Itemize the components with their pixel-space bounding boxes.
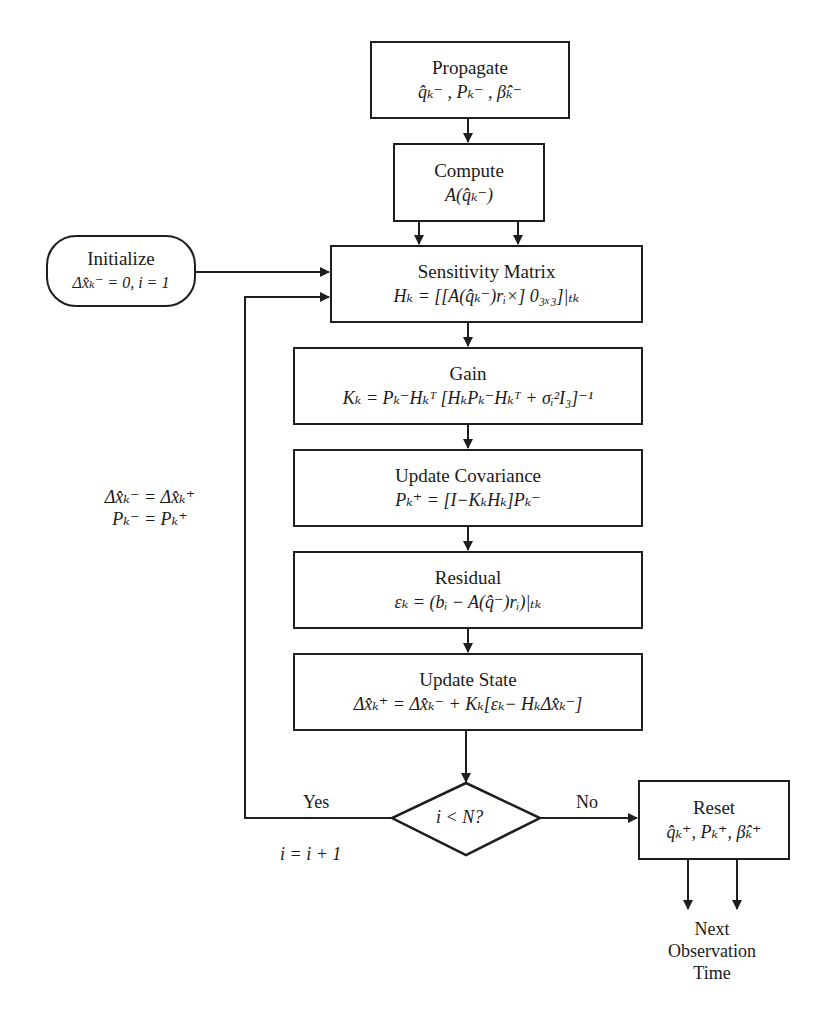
compute-equation: A(q̂ₖ⁻) — [445, 183, 493, 207]
update-covariance-title: Update Covariance — [395, 464, 541, 488]
next-line-2: Observation — [652, 940, 772, 962]
update-state-equation: Δx̂ₖ⁺ = Δx̂ₖ⁻ + Kₖ[εₖ− HₖΔx̂ₖ⁻] — [354, 692, 583, 716]
no-label: No — [576, 792, 598, 813]
loop-assign-covariance: Pₖ⁻ = Pₖ⁺ — [80, 508, 220, 530]
gain-box: Gain Kₖ = Pₖ⁻Hₖᵀ [HₖPₖ⁻Hₖᵀ + σᵢ²I₃]⁻¹ — [293, 347, 643, 425]
initialize-terminal: Initialize Δx̂ₖ⁻ = 0, i = 1 — [46, 235, 196, 307]
update-covariance-box: Update Covariance Pₖ⁺ = [I−KₖHₖ]Pₖ⁻ — [293, 449, 643, 527]
gain-equation: Kₖ = Pₖ⁻Hₖᵀ [HₖPₖ⁻Hₖᵀ + σᵢ²I₃]⁻¹ — [343, 386, 593, 410]
gain-title: Gain — [450, 362, 487, 386]
loop-assign-state: Δx̂ₖ⁻ = Δx̂ₖ⁺ — [80, 486, 220, 508]
sensitivity-matrix-box: Sensitivity Matrix Hₖ = [[A(q̂ₖ⁻)rᵢ×] 0₃… — [330, 245, 643, 323]
reset-equation: q̂ₖ⁺, Pₖ⁺, β̂ₖ⁺ — [666, 820, 761, 844]
initialize-equation: Δx̂ₖ⁻ = 0, i = 1 — [73, 271, 170, 295]
next-line-1: Next — [652, 918, 772, 940]
next-line-3: Time — [652, 962, 772, 984]
residual-title: Residual — [435, 566, 502, 590]
update-state-title: Update State — [419, 668, 517, 692]
next-observation-label: Next Observation Time — [652, 918, 772, 984]
reset-title: Reset — [693, 796, 735, 820]
propagate-equation: q̂ₖ⁻ , Pₖ⁻ , β̂ₖ⁻ — [418, 80, 522, 104]
update-state-box: Update State Δx̂ₖ⁺ = Δx̂ₖ⁻ + Kₖ[εₖ− HₖΔx… — [293, 653, 643, 731]
compute-title: Compute — [434, 159, 504, 183]
compute-box: Compute A(q̂ₖ⁻) — [393, 143, 545, 222]
decision-text: i < N? — [436, 807, 483, 828]
residual-box: Residual εₖ = (bᵢ − A(q̂⁻)rᵢ)|ₜₖ — [293, 551, 643, 629]
increment-label: i = i + 1 — [280, 844, 341, 865]
initialize-title: Initialize — [87, 247, 155, 271]
reset-box: Reset q̂ₖ⁺, Pₖ⁺, β̂ₖ⁺ — [638, 780, 790, 860]
residual-equation: εₖ = (bᵢ − A(q̂⁻)rᵢ)|ₜₖ — [395, 590, 542, 614]
propagate-title: Propagate — [432, 56, 508, 80]
sensitivity-title: Sensitivity Matrix — [418, 260, 556, 284]
update-covariance-equation: Pₖ⁺ = [I−KₖHₖ]Pₖ⁻ — [395, 488, 541, 512]
sensitivity-equation: Hₖ = [[A(q̂ₖ⁻)rᵢ×] 0₃ₓ₃]|ₜₖ — [394, 284, 580, 308]
propagate-box: Propagate q̂ₖ⁻ , Pₖ⁻ , β̂ₖ⁻ — [370, 41, 570, 119]
yes-label: Yes — [303, 792, 329, 813]
